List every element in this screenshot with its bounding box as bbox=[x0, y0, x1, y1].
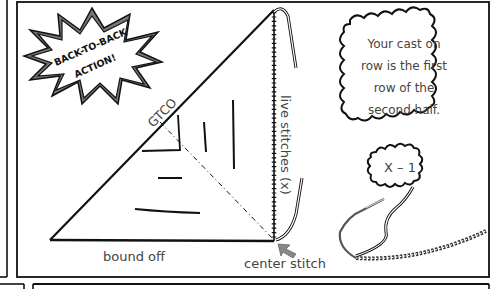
cast-on-stitch-chain bbox=[356, 231, 486, 258]
callout-line4: second half. bbox=[368, 103, 440, 117]
callout-line3: row of the bbox=[374, 81, 435, 95]
center-dashed-line bbox=[160, 122, 274, 240]
callout-bubble: Your cast on row is the first row of the… bbox=[340, 7, 447, 120]
comic-canvas: BACK-TO-BACK ACTION! GTCO live stitches … bbox=[0, 0, 498, 289]
needle-count-text: X – 1 bbox=[384, 160, 416, 175]
bound-off-edge bbox=[50, 240, 274, 241]
bound-off-label: bound off bbox=[103, 249, 166, 264]
row-mark bbox=[233, 100, 234, 169]
callout-line2: row is the first bbox=[361, 59, 447, 73]
needle-count-bubble: X – 1 bbox=[368, 144, 423, 187]
starburst-fill bbox=[32, 16, 156, 98]
row-mark bbox=[135, 209, 200, 213]
live-stitches-label: live stitches (x) bbox=[278, 95, 293, 195]
callout-line1: Your cast on bbox=[366, 37, 440, 51]
row-mark bbox=[204, 122, 206, 152]
knitting-needle-top bbox=[274, 9, 296, 68]
center-stitch-label: center stitch bbox=[244, 256, 326, 271]
circular-needle bbox=[340, 187, 486, 258]
starburst-badge: BACK-TO-BACK ACTION! bbox=[24, 8, 162, 104]
